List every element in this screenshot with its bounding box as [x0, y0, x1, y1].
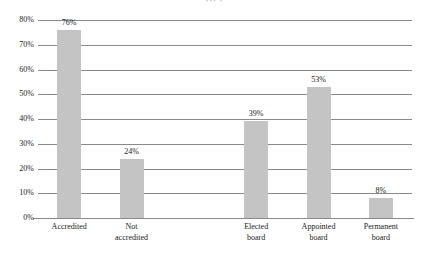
- y-axis-tick-label: 50%: [0, 90, 34, 98]
- y-axis-tick-label: 0%: [0, 214, 34, 222]
- gridline: [38, 119, 412, 120]
- bar: [307, 87, 331, 218]
- bar-value-label: 24%: [112, 148, 152, 156]
- gridline: [38, 169, 412, 170]
- x-axis-tick-label-line: Permanent: [350, 222, 412, 233]
- y-axis-tick-label: 80%: [0, 16, 34, 24]
- x-axis-tick-label: Accredited: [38, 222, 100, 233]
- x-axis-tick-label-line: Appointed: [288, 222, 350, 233]
- chart-title-text: ··· ·: [205, 0, 222, 6]
- x-axis-tick-label-line: board: [225, 233, 287, 244]
- gridline: [38, 193, 412, 194]
- bar-value-label: 8%: [361, 187, 401, 195]
- x-axis-line: [33, 218, 414, 219]
- y-axis-tick-label: 10%: [0, 189, 34, 197]
- bar-chart: ··· · 0%10%20%30%40%50%60%70%80% 76%24%3…: [0, 0, 428, 258]
- y-axis-tick-label: 40%: [0, 115, 34, 123]
- y-axis-tick-label: 20%: [0, 165, 34, 173]
- bar-value-label: 53%: [299, 76, 339, 84]
- x-axis-tick-label-line: Not: [101, 222, 163, 233]
- x-axis-tick-label-line: board: [350, 233, 412, 244]
- gridline: [38, 144, 412, 145]
- plot-area: [38, 20, 412, 218]
- bar-value-label: 39%: [236, 110, 276, 118]
- bar-value-label: 76%: [49, 19, 89, 27]
- bar: [120, 159, 144, 218]
- gridline: [38, 45, 412, 46]
- y-axis-tick-label: 70%: [0, 41, 34, 49]
- y-axis-tick-label: 30%: [0, 140, 34, 148]
- y-axis-tick-label: 60%: [0, 66, 34, 74]
- x-axis-tick-label: Appointedboard: [288, 222, 350, 243]
- x-axis-tick-label-line: Elected: [225, 222, 287, 233]
- x-axis-tick-label: Electedboard: [225, 222, 287, 243]
- bar: [369, 198, 393, 218]
- x-axis-tick-label: Permanentboard: [350, 222, 412, 243]
- x-axis-tick-label: Notaccredited: [101, 222, 163, 243]
- bar: [244, 121, 268, 218]
- x-axis-tick-label-line: accredited: [101, 233, 163, 244]
- gridline: [38, 94, 412, 95]
- bar: [57, 30, 81, 218]
- gridline: [38, 70, 412, 71]
- gridline: [38, 20, 412, 21]
- chart-title-sliver: ··· ·: [0, 0, 428, 7]
- x-axis-tick-label-line: board: [288, 233, 350, 244]
